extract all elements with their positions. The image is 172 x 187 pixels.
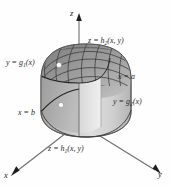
figure-3d-solid-region: z = h2(x, y) y = g1(x) x = a y = g2(x) x… xyxy=(0,0,172,187)
solid-region xyxy=(41,42,133,137)
label-top-surface-args: (x, y) xyxy=(107,36,123,45)
diagram-canvas xyxy=(0,0,172,187)
label-bottom-surface: z = h1(x, y) xyxy=(48,145,84,153)
y-axis-label: y xyxy=(158,170,162,179)
label-top-surface-sub: 2 xyxy=(105,40,108,46)
label-left-curve-eq: = xyxy=(10,58,19,67)
label-bottom-surface-eq: = xyxy=(51,144,60,153)
label-right-curve: y = g2(x) xyxy=(113,98,142,106)
label-plane-b: x = b xyxy=(18,109,35,117)
label-left-curve: y = g1(x) xyxy=(6,59,35,67)
label-left-curve-args: (x) xyxy=(26,58,35,67)
label-bottom-surface-fn: h xyxy=(61,144,65,153)
label-right-curve-sub: 2 xyxy=(130,101,133,107)
z-axis-label: z xyxy=(70,9,73,18)
label-right-curve-args: (x) xyxy=(133,97,142,106)
label-plane-a: x = a xyxy=(118,73,135,81)
label-top-surface: z = h2(x, y) xyxy=(88,37,124,45)
surface-point-marker-lower xyxy=(58,102,63,107)
label-top-surface-eq: = xyxy=(91,36,100,45)
label-bottom-surface-args: (x, y) xyxy=(67,144,83,153)
label-top-surface-fn: h xyxy=(101,36,105,45)
z-axis-arrowhead xyxy=(76,13,82,21)
label-bottom-surface-sub: 1 xyxy=(65,148,68,154)
label-left-curve-sub: 1 xyxy=(23,62,26,68)
label-right-curve-eq: = xyxy=(117,97,126,106)
interior-face-right xyxy=(79,78,101,133)
x-axis-label: x xyxy=(4,171,8,180)
x-axis-arrowhead xyxy=(11,166,20,176)
surface-point-marker-upper xyxy=(56,62,61,67)
